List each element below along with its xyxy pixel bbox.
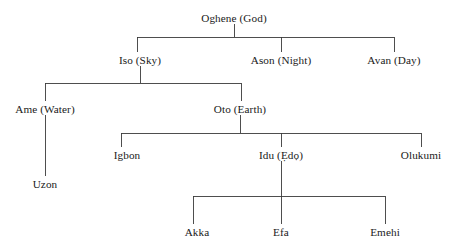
node-ason: Ason (Night) (251, 55, 312, 66)
node-oghene: Oghene (God) (201, 13, 267, 24)
connector-iso-children (45, 66, 241, 101)
connector-oghene-children (137, 24, 394, 52)
node-igbon: Igbon (114, 150, 141, 161)
node-olukumi: Olukumi (401, 150, 441, 161)
node-oto: Oto (Earth) (214, 104, 266, 115)
connector-idu-children (193, 161, 385, 224)
node-efa: Efa (273, 227, 289, 238)
node-ame: Ame (Water) (15, 104, 75, 115)
node-idu: Idu (Ẹdọ) (259, 150, 303, 161)
connector-oto-children (121, 115, 421, 147)
genealogy-tree-diagram: Oghene (God) Iso (Sky) Ason (Night) Avan… (0, 0, 456, 249)
node-akka: Akka (185, 227, 210, 238)
node-uzon: Uzon (33, 179, 58, 190)
node-iso: Iso (Sky) (119, 55, 161, 66)
tree-connector-lines (0, 0, 456, 249)
node-avan: Avan (Day) (367, 55, 420, 66)
node-emehi: Emehi (370, 227, 400, 238)
